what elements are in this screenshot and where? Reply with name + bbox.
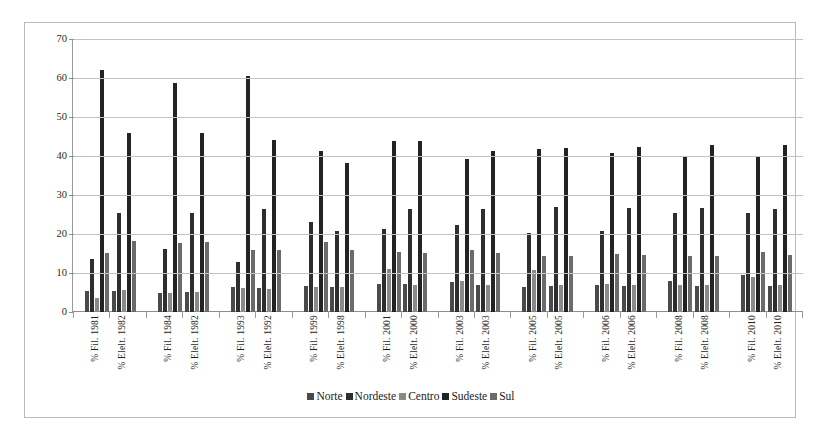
x-axis-label-text: % Fil. 2008 xyxy=(675,315,685,362)
legend-swatch-icon xyxy=(490,393,497,400)
bar-norte xyxy=(85,291,89,312)
x-axis-label-text: % Fil. 1999 xyxy=(310,315,320,362)
bar-norte xyxy=(768,286,772,312)
bar-nordeste xyxy=(90,259,94,312)
bar-sul xyxy=(277,250,281,312)
y-axis-tick-mark xyxy=(69,234,74,235)
bar-sudeste xyxy=(610,153,614,312)
bar-norte xyxy=(257,288,261,312)
x-axis-tick xyxy=(802,312,803,318)
legend-swatch-icon xyxy=(399,393,406,400)
bar-nordeste xyxy=(163,249,167,312)
bar-sudeste xyxy=(272,140,276,312)
gridline xyxy=(73,234,803,235)
bar-sudeste xyxy=(200,133,204,312)
bar-groups-container xyxy=(74,39,803,312)
bar-centro xyxy=(168,293,172,313)
bar-nordeste xyxy=(190,213,194,312)
x-axis-label-text: % Fil. 2003 xyxy=(456,315,466,362)
bar-sul xyxy=(569,256,573,312)
bar-nordeste xyxy=(236,262,240,312)
y-axis-tick-mark xyxy=(69,78,74,79)
bar-sul xyxy=(350,250,354,312)
bar-group xyxy=(397,39,433,312)
gridline xyxy=(73,39,803,40)
bar-sudeste xyxy=(418,141,422,312)
y-axis-tick-label: 60 xyxy=(57,73,68,84)
legend-item[interactable]: Norte xyxy=(307,390,342,402)
x-axis-label-text: % Elelt. 2008 xyxy=(701,315,711,370)
bar-centro xyxy=(314,287,318,312)
bar-sudeste xyxy=(392,141,396,312)
gridline xyxy=(73,195,803,196)
x-axis-label-text: % Elelt. 1992 xyxy=(264,315,274,370)
legend-label: Norte xyxy=(316,390,342,402)
bar-norte xyxy=(112,291,116,312)
legend-label: Sul xyxy=(499,390,514,402)
legend-item[interactable]: Centro xyxy=(399,390,439,402)
x-axis-label-text: % Fil. 2010 xyxy=(748,315,758,362)
bar-norte xyxy=(330,287,334,312)
bar-centro xyxy=(95,298,99,312)
bar-sudeste xyxy=(319,151,323,312)
y-axis-tick-label: 20 xyxy=(57,229,68,240)
bar-norte xyxy=(668,281,672,312)
legend-item[interactable]: Sul xyxy=(490,390,514,402)
x-axis-label-text: % Elelt. 2006 xyxy=(628,315,638,370)
y-axis-tick-label: 0 xyxy=(62,307,67,318)
x-axis-label-text: % Elelt. 2010 xyxy=(774,315,784,370)
bar-centro xyxy=(778,285,782,312)
bar-nordeste xyxy=(309,222,313,312)
y-axis-tick-mark xyxy=(69,39,74,40)
chart-frame: 010203040506070 % Fil. 1981% Elelt. 1982… xyxy=(24,22,796,418)
bar-sudeste xyxy=(465,159,469,312)
bar-centro xyxy=(751,277,755,312)
bar-norte xyxy=(450,282,454,312)
x-axis-label-text: % Fil. 1981 xyxy=(91,315,101,362)
bar-nordeste xyxy=(673,213,677,312)
x-axis-label-text: % Elelt. 2005 xyxy=(555,315,565,370)
x-axis-label-text: % Fil. 2001 xyxy=(383,315,393,362)
bar-nordeste xyxy=(746,213,750,312)
bar-nordeste xyxy=(408,209,412,312)
legend-item[interactable]: Sudeste xyxy=(442,390,487,402)
bar-group xyxy=(688,39,724,312)
x-axis-label-text: % Elelt. 2003 xyxy=(482,315,492,370)
bar-nordeste xyxy=(627,208,631,312)
bar-norte xyxy=(304,286,308,312)
bar-group xyxy=(543,39,579,312)
bar-sudeste xyxy=(345,163,349,312)
bar-sul xyxy=(715,256,719,312)
bar-group xyxy=(470,39,506,312)
legend-swatch-icon xyxy=(346,393,353,400)
gridline xyxy=(73,117,803,118)
bar-norte xyxy=(403,284,407,312)
bar-sudeste xyxy=(100,70,104,312)
bar-norte xyxy=(377,284,381,312)
legend-label: Nordeste xyxy=(355,390,397,402)
bar-centro xyxy=(632,285,636,312)
bar-norte xyxy=(231,287,235,312)
bar-norte xyxy=(741,275,745,312)
bar-centro xyxy=(705,285,709,312)
bar-centro xyxy=(486,285,490,312)
bar-nordeste xyxy=(600,231,604,312)
bar-sudeste xyxy=(246,76,250,312)
y-axis-tick-mark xyxy=(69,273,74,274)
x-axis-label-text: % Fil. 1993 xyxy=(237,315,247,362)
y-axis-tick-mark xyxy=(69,195,74,196)
x-axis-label-text: % Elelt. 1982 xyxy=(191,315,201,370)
bar-centro xyxy=(340,287,344,312)
bar-nordeste xyxy=(481,209,485,312)
y-axis-tick-label: 70 xyxy=(57,34,68,45)
chart-legend: NorteNordesteCentroSudesteSul xyxy=(25,390,797,402)
legend-item[interactable]: Nordeste xyxy=(346,390,397,402)
bar-centro xyxy=(122,290,126,312)
bar-norte xyxy=(622,286,626,312)
bar-nordeste xyxy=(117,213,121,312)
bar-group xyxy=(616,39,652,312)
x-axis-label-text: % Fil. 2005 xyxy=(529,315,539,362)
x-axis-label-text: % Fil. 2006 xyxy=(602,315,612,362)
bar-centro xyxy=(559,285,563,312)
bar-centro xyxy=(267,289,271,312)
